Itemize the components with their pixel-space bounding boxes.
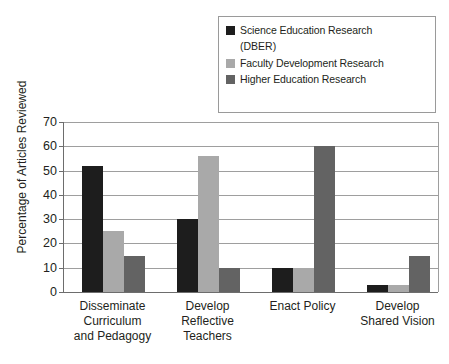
bar-g2-s3[interactable] — [219, 268, 240, 292]
y-tick-label-70: 70 — [27, 116, 57, 128]
x-label-2-line-1: Develop — [153, 299, 263, 314]
bar-g1-s2[interactable] — [103, 231, 124, 292]
bar-g2-s1[interactable] — [177, 219, 198, 292]
bar-group-1 — [82, 122, 145, 292]
x-label-1-line-2: Curriculum — [58, 314, 168, 329]
bar-group-4 — [367, 122, 430, 292]
legend-item-faculty-development-research: Faculty Development Research — [226, 57, 435, 70]
y-tick-label-10: 10 — [27, 262, 57, 274]
y-tick-label-40: 40 — [27, 189, 57, 201]
y-axis-tick-labels: 706050403020100 — [25, 122, 57, 292]
bar-g4-s3[interactable] — [409, 256, 430, 292]
y-tick-label-20: 20 — [27, 237, 57, 249]
legend-label-series-1-line2: (DBER) — [240, 40, 435, 53]
bar-g1-s3[interactable] — [124, 256, 145, 292]
y-tick-label-0: 0 — [27, 286, 57, 298]
y-tick-label-60: 60 — [27, 140, 57, 152]
y-tick-mark-20 — [59, 243, 64, 244]
bar-g3-s3[interactable] — [314, 146, 335, 292]
x-label-1-line-3: and Pedagogy — [58, 329, 168, 344]
legend-label-series-1: Science Education Research — [240, 24, 372, 37]
x-label-2-line-2: Reflective — [153, 314, 263, 329]
legend-label-series-2: Faculty Development Research — [240, 57, 384, 70]
legend-item-higher-education-research: Higher Education Research — [226, 73, 435, 86]
x-label-4-line-1: Develop — [343, 299, 449, 314]
y-tick-mark-50 — [59, 171, 64, 172]
bar-g2-s2[interactable] — [198, 156, 219, 292]
legend-swatch-series-3 — [226, 75, 235, 84]
bar-group-2 — [177, 122, 240, 292]
legend-swatch-series-1 — [226, 26, 235, 35]
x-label-3-line-1: Enact Policy — [248, 299, 358, 314]
x-label-4: DevelopShared Vision — [343, 299, 449, 329]
x-label-2: DevelopReflectiveTeachers — [153, 299, 263, 344]
y-tick-mark-60 — [59, 146, 64, 147]
plot-area — [63, 122, 438, 293]
bar-g1-s1[interactable] — [82, 166, 103, 292]
x-label-4-line-2: Shared Vision — [343, 314, 449, 329]
bar-g4-s1[interactable] — [367, 285, 388, 292]
y-tick-mark-40 — [59, 195, 64, 196]
legend-swatch-series-2 — [226, 59, 235, 68]
y-tick-label-30: 30 — [27, 213, 57, 225]
bar-g3-s2[interactable] — [293, 268, 314, 292]
legend-label-series-3: Higher Education Research — [240, 73, 366, 86]
y-tick-mark-30 — [59, 219, 64, 220]
bar-g4-s2[interactable] — [388, 285, 409, 292]
x-label-1-line-1: Disseminate — [58, 299, 168, 314]
y-tick-mark-0 — [59, 292, 64, 293]
x-label-3: Enact Policy — [248, 299, 358, 314]
bar-g3-s1[interactable] — [272, 268, 293, 292]
bar-group-3 — [272, 122, 335, 292]
y-tick-mark-10 — [59, 268, 64, 269]
y-tick-mark-70 — [59, 122, 64, 123]
chart-legend: Science Education Research (DBER) Facult… — [218, 16, 436, 113]
y-tick-label-50: 50 — [27, 165, 57, 177]
legend-item-science-education-research: Science Education Research — [226, 24, 435, 37]
x-label-1: DisseminateCurriculumand Pedagogy — [58, 299, 168, 344]
x-label-2-line-3: Teachers — [153, 329, 263, 344]
plot-right-border — [438, 122, 439, 292]
